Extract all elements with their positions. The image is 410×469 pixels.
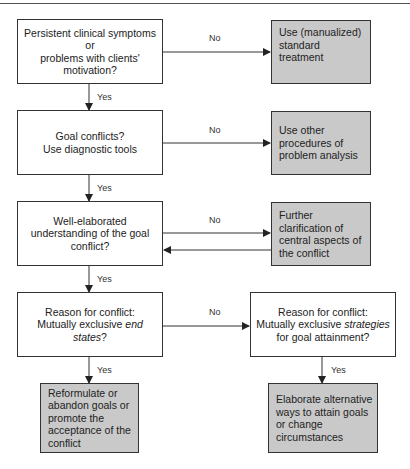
node-text: procedures of (279, 137, 358, 150)
action-other-procedures: Use other procedures of problem analysis (271, 111, 371, 175)
node-text: clarification of (279, 222, 361, 235)
node-text: Reason for conflict: (37, 306, 143, 319)
node-text: conflict (48, 437, 131, 450)
action-further-clarification: Further clarification of central aspects… (271, 202, 371, 266)
node-text: motivation? (24, 64, 156, 77)
edge-label-no: No (209, 125, 221, 135)
node-text: problem analysis (279, 149, 358, 162)
node-text: Goal conflicts? (43, 130, 137, 143)
node-text: Use other (279, 124, 358, 137)
node-text-emphasis: end (125, 318, 143, 330)
edge-label-no: No (209, 307, 221, 317)
decision-strategies: Reason for conflict: Mutually exclusive … (250, 292, 396, 357)
node-text: treatment (279, 51, 361, 64)
node-text: Use diagnostic tools (43, 143, 137, 156)
node-text: Mutually exclusive strategies (256, 318, 390, 331)
node-text: Mutually exclusive end (37, 318, 143, 331)
node-text: the conflict (279, 247, 361, 260)
edge-label-yes: Yes (97, 183, 112, 193)
node-text: states? (37, 331, 143, 344)
node-text: or change (276, 418, 372, 431)
node-text: central aspects of (279, 234, 361, 247)
node-text: abandon goals or (48, 399, 131, 412)
node-text: Elaborate alternative (276, 393, 372, 406)
node-text-part: ? (101, 331, 107, 343)
node-text: acceptance of the (48, 424, 131, 437)
node-text: circumstances (276, 431, 372, 444)
node-text: or (24, 39, 156, 52)
node-text: Use (manualized) (279, 26, 361, 39)
action-reformulate-goals: Reformulate or abandon goals or promote … (40, 383, 139, 453)
node-text: for goal attainment? (256, 331, 390, 344)
node-text-emphasis: strategies (344, 318, 390, 330)
action-elaborate-alternatives: Elaborate alternative ways to attain goa… (268, 383, 378, 453)
action-standard-treatment: Use (manualized) standard treatment (271, 20, 371, 84)
node-text: conflict? (31, 240, 150, 253)
edge-label-yes: Yes (97, 274, 112, 284)
node-text-emphasis: states (73, 331, 101, 343)
node-text-part: Mutually exclusive (256, 318, 344, 330)
decision-well-elaborated: Well-elaborated understanding of the goa… (17, 201, 163, 266)
decision-persistent-symptoms: Persistent clinical symptoms or problems… (17, 19, 163, 84)
node-text: Further (279, 209, 361, 222)
node-text: Well-elaborated (31, 215, 150, 228)
node-text: problems with clients' (24, 52, 156, 65)
decision-end-states: Reason for conflict: Mutually exclusive … (17, 292, 163, 357)
edge-label-yes: Yes (97, 92, 112, 102)
edge-label-no: No (209, 215, 221, 225)
node-text: Reformulate or (48, 387, 131, 400)
decision-goal-conflicts: Goal conflicts? Use diagnostic tools (17, 110, 163, 175)
edge-label-no: No (209, 33, 221, 43)
edge-label-yes: Yes (97, 365, 112, 375)
node-text: Reason for conflict: (256, 306, 390, 319)
edge-label-yes: Yes (331, 365, 346, 375)
node-text: promote the (48, 412, 131, 425)
node-text: standard (279, 39, 361, 52)
node-text: Persistent clinical symptoms (24, 27, 156, 40)
node-text: ways to attain goals (276, 406, 372, 419)
node-text: understanding of the goal (31, 227, 150, 240)
node-text-part: Mutually exclusive (37, 318, 125, 330)
